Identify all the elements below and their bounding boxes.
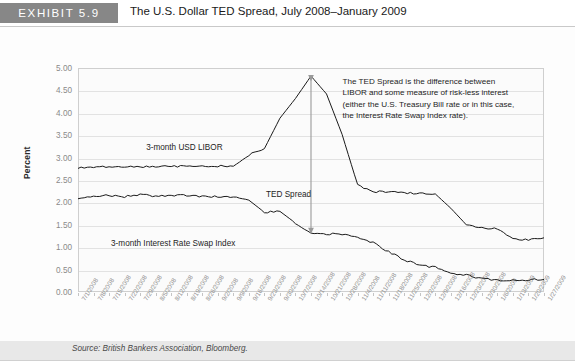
- y-axis-title: Percent: [22, 146, 32, 179]
- exhibit-badge: EXHIBIT 5.9: [0, 3, 118, 23]
- x-axis-tick-mark: [435, 293, 436, 296]
- y-axis-tick-label: 3.00: [56, 153, 72, 162]
- y-axis-tick-label: 2.50: [56, 176, 72, 185]
- x-axis-tick-mark: [342, 293, 343, 296]
- chart-panel: 5.004.504.003.503.002.502.001.501.000.50…: [0, 27, 575, 341]
- x-axis-tick-mark: [94, 293, 95, 296]
- x-axis-tick-mark: [233, 293, 234, 296]
- x-axis-tick-mark: [264, 293, 265, 296]
- exhibit-title: The U.S. Dollar TED Spread, July 2008–Ja…: [130, 5, 407, 17]
- series-label-ted-spread: TED Spread: [266, 190, 311, 199]
- x-axis-tick-mark: [373, 293, 374, 296]
- x-axis-tick-mark: [466, 293, 467, 296]
- x-axis-tick-mark: [280, 293, 281, 296]
- x-axis-tick-mark: [451, 293, 452, 296]
- x-axis-tick-mark: [528, 293, 529, 296]
- y-axis-tick-label: 1.50: [56, 220, 72, 229]
- ted-spread-annotation: The TED Spread is the difference between…: [343, 76, 515, 122]
- y-axis-tick-label: 0.50: [56, 265, 72, 274]
- y-axis-tick-label: 5.00: [56, 64, 72, 73]
- x-axis-tick-mark: [404, 293, 405, 296]
- y-axis-tick-label: 3.50: [56, 131, 72, 140]
- x-axis-tick-mark: [109, 293, 110, 296]
- y-axis-tick-label: 2.00: [56, 198, 72, 207]
- x-axis-tick-mark: [358, 293, 359, 296]
- x-axis-tick-mark: [125, 293, 126, 296]
- x-axis-tick-mark: [187, 293, 188, 296]
- x-axis-tick-mark: [156, 293, 157, 296]
- x-axis-tick-mark: [218, 293, 219, 296]
- x-axis-tick-mark: [171, 293, 172, 296]
- x-axis-tick-mark: [513, 293, 514, 296]
- x-axis-tick-mark: [544, 293, 545, 296]
- exhibit-header: EXHIBIT 5.9 The U.S. Dollar TED Spread, …: [0, 0, 575, 27]
- series-label-libor: 3-month USD LIBOR: [146, 143, 222, 152]
- y-axis-tick-label: 4.00: [56, 108, 72, 117]
- x-axis-tick-mark: [295, 293, 296, 296]
- x-axis-tick-mark: [140, 293, 141, 296]
- x-axis-tick-mark: [202, 293, 203, 296]
- y-axis-tick-label: 4.50: [56, 86, 72, 95]
- x-axis-tick-mark: [482, 293, 483, 296]
- x-axis-tick-mark: [78, 293, 79, 296]
- x-axis-tick-mark: [497, 293, 498, 296]
- x-axis-tick-mark: [249, 293, 250, 296]
- x-axis-tick-mark: [389, 293, 390, 296]
- y-axis-tick-label: 1.00: [56, 243, 72, 252]
- x-axis-tick-mark: [420, 293, 421, 296]
- source-note: Source: British Bankers Association, Blo…: [72, 344, 248, 353]
- x-axis-tick-mark: [327, 293, 328, 296]
- x-axis-tick-mark: [311, 293, 312, 296]
- series-label-swap-index: 3-month Interest Rate Swap Index: [111, 239, 235, 248]
